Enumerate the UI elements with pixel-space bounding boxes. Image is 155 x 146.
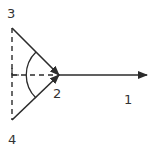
label-1: 1: [124, 92, 132, 107]
vector-diagram: 3 2 1 4: [0, 0, 155, 146]
label-3: 3: [7, 6, 15, 21]
label-2: 2: [53, 86, 61, 101]
right-angle-mark: [12, 68, 19, 75]
arrow-4-to-2: [12, 75, 59, 120]
arrow-3-to-2: [12, 28, 59, 75]
label-4: 4: [8, 132, 16, 146]
